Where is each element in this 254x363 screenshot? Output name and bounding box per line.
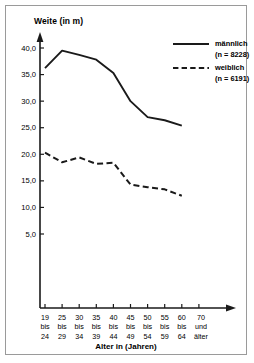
legend-label-maennlich: männlich	[215, 39, 247, 48]
x-tick-line-1: 70	[186, 313, 216, 322]
y-tick-label: 20,0	[6, 150, 36, 159]
axes	[37, 32, 236, 311]
x-tick-label-last: 70undälter	[186, 313, 216, 341]
series-line-männlich	[45, 51, 182, 126]
y-tick-label: 40,0	[6, 44, 36, 53]
legend-count-weiblich: (n = 6191)	[215, 74, 249, 83]
legend-count-maennlich: (n = 8228)	[215, 50, 249, 59]
y-tick-label: 15,0	[6, 176, 36, 185]
chart-frame: Weite (in m) 5,010,015,020,025,030,035,0…	[5, 5, 247, 355]
y-tick-label: 30,0	[6, 97, 36, 106]
x-tick-line-3: älter	[186, 332, 216, 341]
x-axis-title: Alter in (Jahren)	[6, 342, 246, 351]
series-line-weiblich	[45, 153, 182, 196]
x-tick-line-2: und	[186, 322, 216, 331]
chart-plot-area	[6, 6, 248, 356]
y-tick-label: 35,0	[6, 70, 36, 79]
y-tick-label: 10,0	[6, 203, 36, 212]
data-series-lines	[45, 51, 182, 196]
legend-label-weiblich: weiblich	[215, 63, 244, 72]
y-tick-label: 5,0	[6, 230, 36, 239]
legend-line-samples	[173, 44, 209, 68]
y-tick-label: 25,0	[6, 123, 36, 132]
